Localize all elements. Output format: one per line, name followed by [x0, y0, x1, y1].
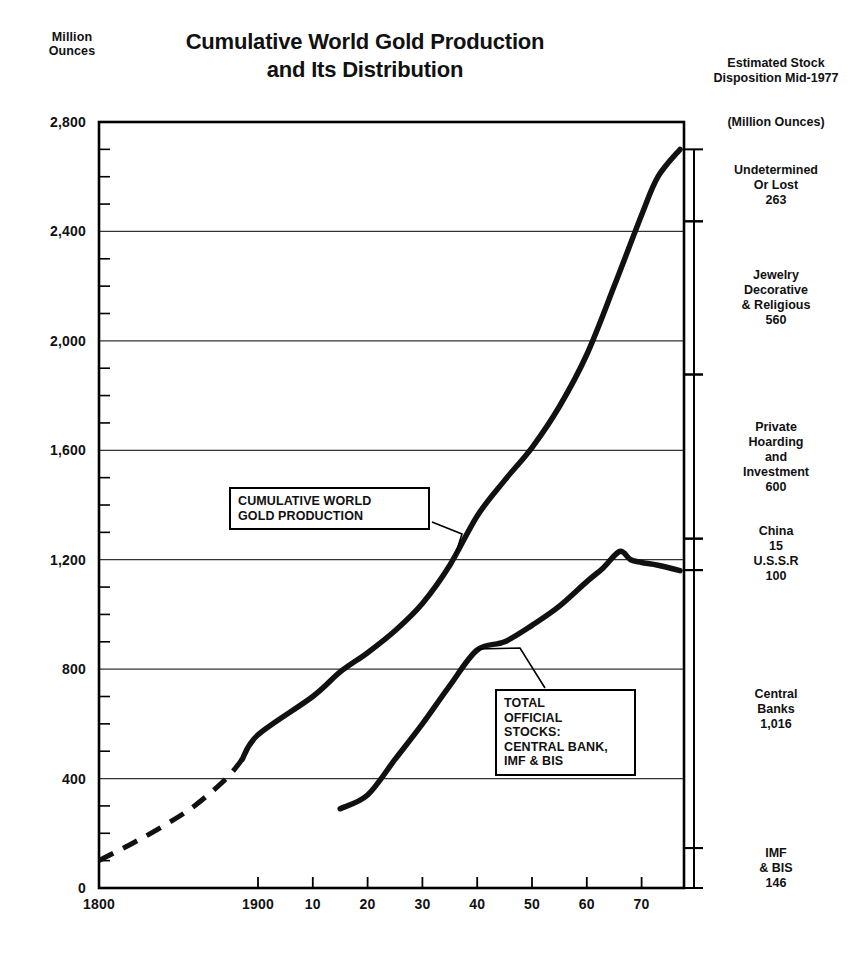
- x-axis-label-1900: 1900: [242, 896, 274, 912]
- x-axis-label-30: 30: [414, 896, 430, 912]
- leader-line-stocks: [477, 648, 545, 688]
- y-axis-label-800: 800: [8, 661, 86, 677]
- x-axis-label-10: 10: [305, 896, 321, 912]
- y-axis-label-1200: 1,200: [8, 552, 86, 568]
- x-axis-label-20: 20: [360, 896, 376, 912]
- y-axis-label-0: 0: [8, 880, 86, 896]
- y-axis-label-1600: 1,600: [8, 442, 86, 458]
- y-axis-label-2800: 2,800: [8, 114, 86, 130]
- y-axis-label-2400: 2,400: [8, 223, 86, 239]
- series-line-cumulative-production-dashed: [99, 759, 242, 860]
- y-axis-label-400: 400: [8, 771, 86, 787]
- x-axis-label-60: 60: [579, 896, 595, 912]
- callout-cumulative-world-gold-production: CUMULATIVE WORLD GOLD PRODUCTION: [229, 487, 430, 530]
- gold-production-chart: Million Ounces Cumulative World Gold Pro…: [0, 0, 859, 966]
- x-axis-label-40: 40: [469, 896, 485, 912]
- x-axis-label-50: 50: [524, 896, 540, 912]
- callout-total-official-stocks: TOTAL OFFICIAL STOCKS: CENTRAL BANK, IMF…: [495, 689, 636, 776]
- plot-area: [0, 0, 859, 966]
- x-axis-label-70: 70: [634, 896, 650, 912]
- x-axis-label-1800: 1800: [83, 896, 115, 912]
- y-axis-label-2000: 2,000: [8, 333, 86, 349]
